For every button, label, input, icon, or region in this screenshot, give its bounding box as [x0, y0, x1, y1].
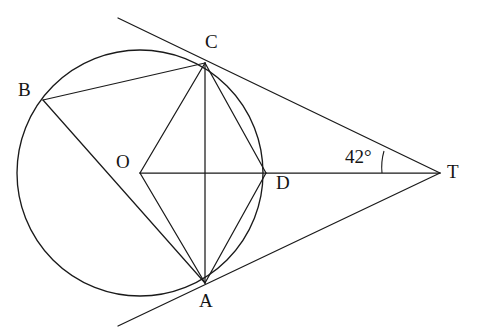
chord-BC [43, 63, 205, 100]
angle-label-42-degrees: 42° [345, 147, 372, 166]
diagram-canvas: C B A D O T 42° [0, 0, 477, 334]
chord-CD [205, 63, 266, 173]
point-label-D: D [276, 173, 290, 192]
geometry-figure [0, 0, 477, 334]
point-label-B: B [18, 80, 31, 99]
tangent-line-at-A [118, 173, 440, 326]
radius-OA [140, 173, 205, 283]
chord-BA [43, 100, 205, 283]
radius-OC [140, 63, 205, 173]
angle-arc-at-T [382, 151, 384, 173]
tangent-line-at-C [118, 18, 440, 173]
point-label-A: A [199, 291, 213, 310]
chord-AD [205, 173, 266, 283]
point-label-C: C [205, 32, 218, 51]
point-label-T: T [447, 162, 459, 181]
point-label-O: O [116, 152, 130, 171]
